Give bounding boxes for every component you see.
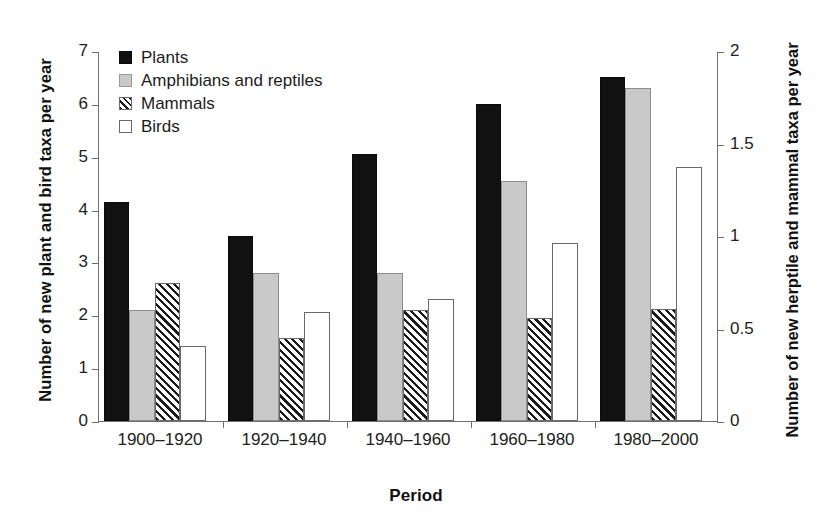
y-axis-right-title: Number of new herptile and mammal taxa p… — [782, 40, 802, 440]
bar-mammals-2 — [279, 338, 305, 422]
y-axis-right-tick — [717, 145, 724, 146]
y-axis-left-ticklabel: 1 — [56, 358, 88, 378]
bar-birds-5 — [676, 167, 702, 421]
y-axis-right-ticklabel: 1 — [730, 226, 776, 246]
bar-plants-3 — [352, 154, 378, 421]
y-axis-right-tick — [717, 237, 724, 238]
y-axis-right-ticklabel: 2 — [730, 41, 776, 61]
legend-label: Amphibians and reptiles — [141, 72, 322, 89]
y-axis-right-ticklabel: 0.5 — [730, 319, 776, 339]
bar-amph-4 — [501, 181, 527, 422]
x-axis-ticklabel: 1940–1960 — [346, 430, 470, 450]
legend-item-plants: Plants — [119, 46, 419, 69]
legend-label: Plants — [141, 49, 188, 66]
y-axis-left-tick — [92, 105, 99, 106]
bar-plants-4 — [476, 104, 502, 421]
y-axis-left-ticklabel: 0 — [56, 411, 88, 431]
bar-amph-1 — [129, 310, 155, 421]
legend-label: Mammals — [141, 95, 215, 112]
bar-amph-3 — [377, 273, 403, 421]
bar-mammals-5 — [651, 309, 677, 421]
bar-plants-5 — [600, 77, 626, 421]
legend-item-amph: Amphibians and reptiles — [119, 69, 419, 92]
bar-mammals-4 — [527, 318, 553, 421]
y-axis-left-ticklabels: 01234567 — [56, 52, 88, 422]
x-axis-ticklabel: 1960–1980 — [470, 430, 594, 450]
y-axis-left-tick — [92, 316, 99, 317]
y-axis-left-ticklabel: 6 — [56, 94, 88, 114]
bar-amph-5 — [625, 88, 651, 421]
legend-swatch-birds-icon — [119, 120, 132, 133]
x-axis-ticklabels: 1900–19201920–19401940–19601960–19801980… — [98, 430, 718, 456]
x-axis-title: Period — [0, 486, 832, 506]
y-axis-right-title-wrap: Number of new herptile and mammal taxa p… — [782, 40, 824, 440]
legend-swatch-plants-icon — [119, 51, 132, 64]
bar-plants-2 — [228, 236, 254, 421]
x-axis-tick — [347, 421, 348, 428]
bar-birds-4 — [552, 243, 578, 421]
x-axis-tick — [223, 421, 224, 428]
y-axis-right-tick — [717, 52, 724, 53]
bar-birds-3 — [428, 299, 454, 421]
bar-amph-2 — [253, 273, 279, 421]
y-axis-right-tick — [717, 330, 724, 331]
y-axis-left-tick — [92, 263, 99, 264]
y-axis-right-ticklabels: 00.511.52 — [730, 52, 776, 422]
legend-label: Birds — [141, 118, 180, 135]
x-axis-tick — [595, 421, 596, 428]
chart-legend: PlantsAmphibians and reptilesMammalsBird… — [119, 46, 419, 138]
y-axis-right-ticklabel: 1.5 — [730, 134, 776, 154]
y-axis-left-tick — [92, 52, 99, 53]
y-axis-left-tick — [92, 158, 99, 159]
bar-birds-2 — [304, 312, 330, 421]
y-axis-left-ticklabel: 2 — [56, 305, 88, 325]
y-axis-left-ticklabel: 7 — [56, 41, 88, 61]
x-axis-ticklabel: 1900–1920 — [98, 430, 222, 450]
y-axis-right-ticklabel: 0 — [730, 411, 776, 431]
y-axis-left-tick — [92, 211, 99, 212]
bar-chart-figure: Number of new plant and bird taxa per ye… — [0, 0, 832, 524]
x-axis-tick — [471, 421, 472, 428]
y-axis-right-tick — [717, 422, 724, 423]
y-axis-left-ticklabel: 4 — [56, 200, 88, 220]
y-axis-left-ticklabel: 3 — [56, 252, 88, 272]
legend-swatch-amph-icon — [119, 74, 132, 87]
legend-item-mammals: Mammals — [119, 92, 419, 115]
legend-swatch-mammals-icon — [119, 97, 132, 110]
bar-birds-1 — [180, 346, 206, 421]
y-axis-left-ticklabel: 5 — [56, 147, 88, 167]
y-axis-left-tick — [92, 422, 99, 423]
bar-plants-1 — [104, 202, 130, 421]
bar-mammals-1 — [155, 283, 181, 421]
x-axis-ticklabel: 1980–2000 — [594, 430, 718, 450]
y-axis-left-tick — [92, 369, 99, 370]
x-axis-ticklabel: 1920–1940 — [222, 430, 346, 450]
bar-mammals-3 — [403, 310, 429, 421]
legend-item-birds: Birds — [119, 115, 419, 138]
